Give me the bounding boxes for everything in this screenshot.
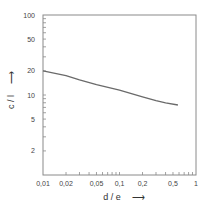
y-tick-label: 20 (27, 67, 35, 74)
log-log-chart: 25102050100 0,010,020,050,10,20,51 d / e… (0, 0, 209, 220)
x-tick-label: 0,05 (90, 180, 104, 187)
data-line (43, 71, 178, 105)
x-axis-title: d / e (103, 192, 121, 202)
x-axis-title-group: d / e ⟶ (103, 192, 144, 202)
y-axis-title: c / l (6, 95, 16, 109)
x-axis-arrow-icon: ⟶ (132, 192, 145, 202)
x-tick-label: 1 (194, 180, 198, 187)
x-tick-label: 0,02 (59, 180, 73, 187)
y-tick-label: 50 (27, 36, 35, 43)
x-tick-label: 0,01 (36, 180, 50, 187)
plot-frame (43, 15, 196, 175)
y-tick-label: 5 (31, 116, 35, 123)
plot-border (43, 15, 196, 175)
y-tick-label: 100 (23, 12, 35, 19)
y-tick-label: 10 (27, 92, 35, 99)
y-axis-arrow-icon: ⟶ (6, 71, 16, 84)
y-axis-title-group: c / l ⟶ (6, 71, 16, 110)
y-tick-label: 2 (31, 147, 35, 154)
x-tick-label: 0,5 (168, 180, 178, 187)
x-tick-label: 0,2 (138, 180, 148, 187)
x-tick-label: 0,1 (115, 180, 125, 187)
data-series (43, 71, 178, 105)
x-axis-ticks: 0,010,020,050,10,20,51 (36, 172, 198, 187)
